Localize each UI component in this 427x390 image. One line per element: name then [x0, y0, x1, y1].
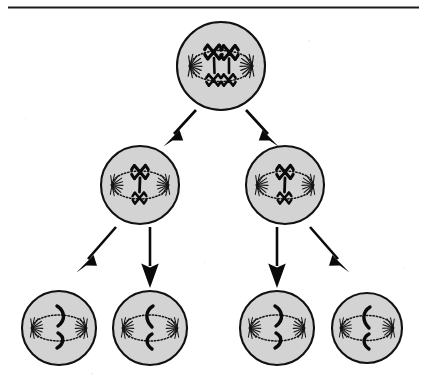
arrow-daughter-right-to-gamete-3: [268, 227, 286, 288]
arrow-daughter-left-to-gamete-2: [141, 227, 159, 288]
daughter-cell-left: [101, 146, 179, 224]
gamete-cell-4: [332, 293, 402, 363]
arrow-daughter-left-to-gamete-1: [77, 227, 117, 273]
daughter-cell-right: [246, 146, 324, 224]
cell-division-figure: [0, 0, 427, 390]
daughter-cell-left-strand: [140, 178, 141, 192]
parent-cell-strand-left: [214, 58, 215, 73]
daughter-cell-right-strand: [285, 178, 286, 192]
gamete-cell-1: [22, 291, 96, 365]
parent-cell: [177, 22, 265, 110]
arrow-daughter-right-to-gamete-4: [310, 227, 350, 273]
gamete-cell-2: [113, 291, 187, 365]
arrow-parent-to-daughter-left: [164, 110, 197, 147]
arrow-parent-to-daughter-right: [246, 110, 279, 147]
gamete-cell-3: [240, 291, 314, 365]
